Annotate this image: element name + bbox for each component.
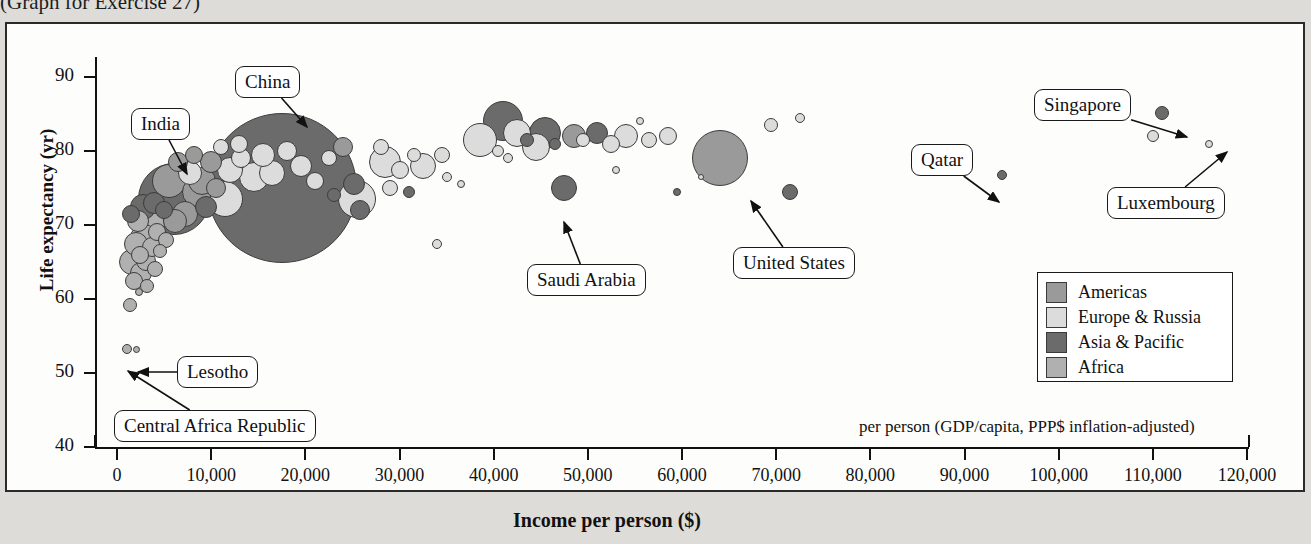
data-bubble xyxy=(206,178,226,198)
data-bubble xyxy=(382,180,398,196)
data-bubble xyxy=(403,186,415,198)
data-bubble xyxy=(213,139,229,155)
legend-swatch xyxy=(1046,332,1067,353)
x-tick xyxy=(1246,447,1248,460)
y-tick xyxy=(84,224,97,226)
data-bubble xyxy=(434,147,450,163)
data-bubble xyxy=(673,188,681,196)
legend-item: Americas xyxy=(1046,280,1224,305)
data-bubble xyxy=(1205,140,1213,148)
x-tick xyxy=(587,447,589,460)
annotation-callout-singapore[interactable]: Singapore xyxy=(1034,89,1131,121)
data-bubble xyxy=(306,172,324,190)
data-bubble xyxy=(659,127,677,145)
annotation-leader-line xyxy=(964,176,999,202)
data-bubble xyxy=(373,139,389,155)
data-bubble xyxy=(782,184,798,200)
legend-swatch xyxy=(1046,282,1067,303)
data-bubble xyxy=(131,246,149,264)
legend-item: Asia & Pacific xyxy=(1046,330,1224,355)
x-tick xyxy=(681,447,683,460)
data-bubble xyxy=(327,188,341,202)
data-bubble xyxy=(549,138,561,150)
data-bubble xyxy=(997,170,1007,180)
data-bubble xyxy=(407,148,421,162)
y-tick-label: 80 xyxy=(22,138,74,160)
figure-caption: (Graph for Exercise 27) xyxy=(0,0,400,16)
x-tick xyxy=(399,447,401,460)
y-axis-line xyxy=(95,57,97,449)
data-bubble xyxy=(641,132,657,148)
data-bubble xyxy=(698,174,704,180)
data-bubble xyxy=(135,288,143,296)
x-tick-label: 120,000 xyxy=(1192,465,1302,486)
annotation-callout-india[interactable]: India xyxy=(131,108,190,140)
data-bubble xyxy=(764,118,778,132)
y-tick-label: 40 xyxy=(22,434,74,456)
data-bubble xyxy=(122,205,140,223)
x-axis-label: Income per person ($) xyxy=(357,509,857,532)
x-tick xyxy=(1058,447,1060,460)
y-tick-label: 50 xyxy=(22,360,74,382)
legend-item: Europe & Russia xyxy=(1046,305,1224,330)
figure-page: (Graph for Exercise 27) Life expectancy … xyxy=(0,0,1311,544)
y-tick-label: 90 xyxy=(22,64,74,86)
annotation-callout-china[interactable]: China xyxy=(235,66,300,98)
x-axis-left-cap xyxy=(94,435,96,447)
data-bubble xyxy=(133,346,140,353)
data-bubble xyxy=(195,196,217,218)
x-axis-line xyxy=(95,447,1249,449)
data-bubble xyxy=(457,180,465,188)
annotation-callout-luxembourg[interactable]: Luxembourg xyxy=(1107,187,1225,219)
legend-item: Africa xyxy=(1046,355,1224,380)
figure-frame: Life expectancy (yr) Income per person (… xyxy=(5,22,1305,492)
x-tick xyxy=(1152,447,1154,460)
data-bubble xyxy=(185,146,203,164)
legend-swatch xyxy=(1046,307,1067,328)
data-bubble xyxy=(442,172,452,182)
y-tick xyxy=(84,372,97,374)
legend-swatch xyxy=(1046,357,1067,378)
x-axis-right-cap xyxy=(1248,435,1250,447)
data-bubble xyxy=(612,166,620,174)
legend-label: Europe & Russia xyxy=(1078,307,1201,328)
annotation-leader-line xyxy=(1131,120,1187,137)
data-bubble xyxy=(795,113,805,123)
x-tick xyxy=(210,447,212,460)
annotation-callout-saudi-arabia[interactable]: Saudi Arabia xyxy=(527,264,646,296)
data-bubble xyxy=(551,175,577,201)
legend-label: Americas xyxy=(1078,282,1147,303)
data-bubble xyxy=(576,133,590,147)
y-tick-label: 70 xyxy=(22,212,74,234)
x-tick xyxy=(116,447,118,460)
data-bubble xyxy=(1155,106,1169,120)
y-tick xyxy=(84,298,97,300)
axis-note: per person (GDP/capita, PPP$ inflation-a… xyxy=(859,417,1195,437)
x-tick xyxy=(869,447,871,460)
annotation-leader-line xyxy=(751,201,783,247)
data-bubble xyxy=(602,135,620,153)
data-bubble xyxy=(350,200,370,220)
y-tick xyxy=(84,150,97,152)
data-bubble xyxy=(122,344,132,354)
x-tick xyxy=(304,447,306,460)
data-bubble xyxy=(123,298,137,312)
data-bubble xyxy=(153,244,167,258)
x-tick xyxy=(775,447,777,460)
y-tick xyxy=(84,76,97,78)
x-tick xyxy=(964,447,966,460)
legend-label: Asia & Pacific xyxy=(1078,332,1184,353)
data-bubble xyxy=(1147,130,1159,142)
annotation-leader-line xyxy=(564,222,580,264)
annotation-callout-lesotho[interactable]: Lesotho xyxy=(177,356,258,388)
data-bubble xyxy=(432,239,442,249)
annotation-leader-line xyxy=(1185,152,1227,187)
annotation-callout-central-africa-republic[interactable]: Central Africa Republic xyxy=(114,410,316,442)
legend-label: Africa xyxy=(1078,357,1124,378)
data-bubble xyxy=(636,117,644,125)
annotation-callout-qatar[interactable]: Qatar xyxy=(911,144,973,176)
y-tick-label: 60 xyxy=(22,286,74,308)
annotation-callout-united-states[interactable]: United States xyxy=(733,247,855,279)
data-bubble xyxy=(230,135,248,153)
data-bubble xyxy=(277,141,297,161)
